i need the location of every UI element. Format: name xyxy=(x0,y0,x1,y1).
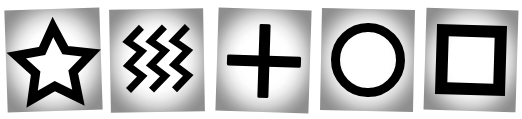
card-face xyxy=(320,8,415,112)
card-face xyxy=(4,7,102,112)
card-face xyxy=(109,8,205,113)
zener-card-square[interactable] xyxy=(424,8,519,113)
waves-icon xyxy=(123,23,190,98)
zener-card-star[interactable] xyxy=(4,7,102,112)
cross-icon xyxy=(224,21,302,99)
zener-card-row xyxy=(0,0,522,119)
circle-icon xyxy=(329,21,406,98)
zener-card-waves[interactable] xyxy=(109,8,205,113)
card-face xyxy=(215,8,311,114)
card-face xyxy=(424,8,519,113)
zener-card-circle[interactable] xyxy=(320,8,415,112)
square-icon xyxy=(435,24,507,96)
star-icon xyxy=(13,21,93,100)
zener-card-cross[interactable] xyxy=(215,8,311,114)
